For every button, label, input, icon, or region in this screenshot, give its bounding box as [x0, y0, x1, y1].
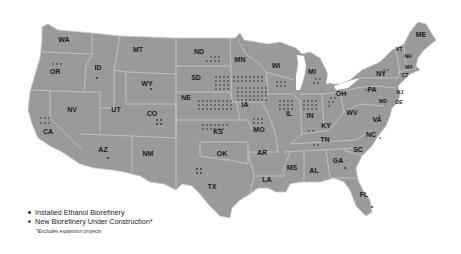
state-label-nv: NV — [67, 106, 77, 113]
state-label-mo: MO — [253, 126, 265, 133]
state-label-ma: MA — [405, 64, 413, 70]
state-label-nh: NH — [404, 53, 412, 59]
state-label-pa: PA — [367, 86, 376, 93]
state-label-de: DE — [396, 99, 404, 105]
state-label-ia: IA — [242, 101, 249, 108]
legend-label-installed: Installed Ethanol Biorefinery — [35, 208, 125, 217]
state-label-vt: VT — [396, 46, 402, 52]
state-label-wy: WY — [141, 80, 153, 87]
state-label-sc: SC — [353, 146, 363, 153]
legend-item-under-construction: New Biorefinery Under Construction* — [28, 217, 152, 226]
state-label-ks: KS — [213, 128, 223, 135]
state-label-wi: WI — [272, 62, 281, 69]
state-label-oh: OH — [336, 90, 347, 97]
state-label-mn: MN — [235, 56, 246, 63]
state-label-fl: FL — [360, 191, 369, 198]
state-label-or: OR — [50, 68, 61, 75]
legend: Installed Ethanol Biorefinery New Bioref… — [28, 208, 152, 236]
state-label-ok: OK — [217, 150, 228, 157]
construction-dot-icon — [28, 220, 31, 223]
state-label-nm: NM — [143, 150, 154, 157]
state-label-ga: GA — [333, 157, 344, 164]
state-label-sd: SD — [191, 74, 201, 81]
state-label-il: IL — [286, 110, 293, 117]
state-label-wa: WA — [58, 36, 69, 43]
legend-label-under-construction: New Biorefinery Under Construction* — [35, 217, 152, 226]
state-label-ne: NE — [181, 94, 191, 101]
state-label-nd: ND — [194, 48, 204, 55]
state-label-ar: AR — [257, 149, 267, 156]
state-label-me: ME — [416, 31, 427, 38]
installed-dot-icon — [28, 211, 31, 214]
state-label-md: MD — [379, 98, 387, 104]
state-label-nj: NJ — [397, 89, 404, 95]
state-label-co: CO — [147, 110, 158, 117]
state-label-wv: WV — [346, 109, 358, 116]
state-label-va: VA — [372, 116, 381, 123]
state-label-in: IN — [307, 112, 314, 119]
legend-footnote: *Excludes expansion projects — [36, 227, 152, 236]
state-label-nc: NC — [366, 131, 376, 138]
state-label-tx: TX — [208, 183, 217, 190]
state-label-ca: CA — [43, 128, 53, 135]
state-label-mt: MT — [133, 46, 144, 53]
state-label-ct: CT — [402, 72, 409, 78]
state-label-ky: KY — [321, 122, 331, 129]
state-label-id: ID — [95, 64, 102, 71]
state-label-tn: TN — [320, 136, 329, 143]
state-label-ny: NY — [376, 70, 386, 77]
state-label-mi: MI — [308, 68, 316, 75]
state-label-la: LA — [262, 176, 271, 183]
state-label-al: AL — [309, 167, 319, 174]
state-label-az: AZ — [98, 146, 108, 153]
state-label-ms: MS — [287, 164, 298, 171]
legend-item-installed: Installed Ethanol Biorefinery — [28, 208, 152, 217]
state-label-ut: UT — [111, 106, 121, 113]
